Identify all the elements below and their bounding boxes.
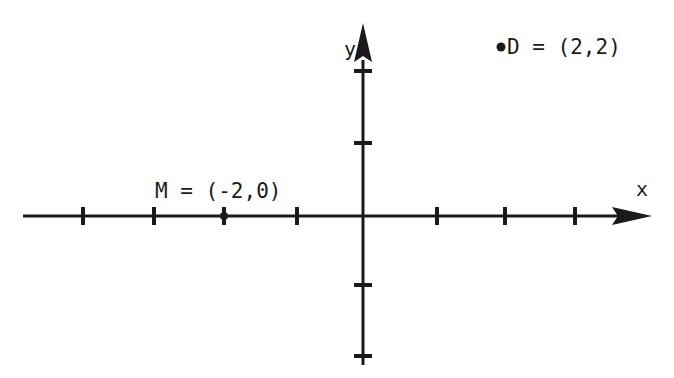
x-axis-label: x: [636, 177, 648, 201]
x-axis: x: [23, 177, 652, 225]
point-d-label: D = (2,2): [507, 35, 621, 59]
y-axis-arrow-icon: [354, 23, 372, 62]
point-m-label: M = (-2,0): [155, 179, 281, 203]
point-d-marker: [497, 43, 506, 52]
point-m-marker: [220, 212, 228, 220]
x-axis-arrow-icon: [612, 207, 652, 225]
coordinate-plane: x y M = (-2,0) D = (2,2): [0, 0, 674, 378]
y-axis: y: [344, 23, 372, 365]
y-axis-label: y: [344, 37, 356, 61]
